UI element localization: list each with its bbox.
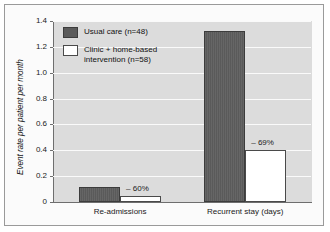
bar-intervention	[245, 150, 286, 202]
x-axis-line	[53, 202, 312, 203]
chart-figure: Event rate per patient per month 1.41.21…	[4, 4, 324, 226]
bar-annotation: – 60%	[126, 185, 149, 193]
bar-annotation: – 69%	[251, 139, 274, 147]
y-tick-label: 0.4	[5, 146, 47, 154]
x-tick-label: Recurrent stay (days)	[185, 207, 305, 217]
y-tick-label: 0.6	[5, 120, 47, 128]
legend-swatch-usual-care	[63, 27, 78, 38]
y-tick-label: 0	[5, 198, 47, 206]
y-tick-mark	[50, 202, 53, 203]
bar-usual-care	[79, 187, 120, 203]
x-tick-label: Re-admissions	[60, 207, 180, 217]
y-tick-label: 1.2	[5, 43, 47, 51]
legend-item: Usual care (n=48)	[63, 27, 223, 38]
legend-label-usual-care: Usual care (n=48)	[84, 27, 148, 37]
legend-swatch-intervention	[63, 45, 78, 56]
bar-intervention	[120, 196, 161, 202]
legend-label-intervention: Clinic + home-based intervention (n=58)	[84, 45, 157, 65]
y-tick-label: 1.4	[5, 17, 47, 25]
y-tick-label: 0.8	[5, 95, 47, 103]
chart-legend: Usual care (n=48) Clinic + home-based in…	[63, 27, 223, 72]
y-tick-label: 1.0	[5, 69, 47, 77]
legend-item: Clinic + home-based intervention (n=58)	[63, 45, 223, 65]
y-tick-label: 0.2	[5, 172, 47, 180]
